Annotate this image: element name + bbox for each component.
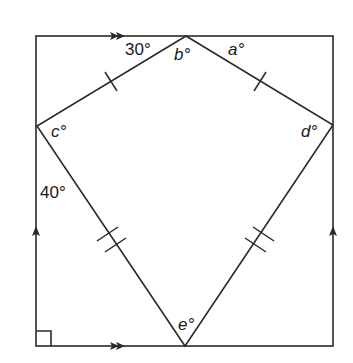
tick-upper-left	[105, 72, 117, 91]
right-angle-marker	[37, 331, 51, 346]
angle-label-e: e°	[178, 315, 194, 334]
kite-rectangle-diagram: 30° b° a° c° d° 40° e°	[0, 0, 353, 363]
bottom-double-arrow-icon	[110, 342, 125, 350]
tick-upper-right	[254, 72, 266, 91]
angle-label-c: c°	[51, 122, 67, 141]
angle-label-40: 40°	[40, 183, 66, 202]
top-double-arrow-icon	[110, 32, 125, 40]
angle-label-b: b°	[174, 45, 190, 64]
double-tick-lower-right	[245, 227, 274, 252]
angle-label-30: 30°	[125, 40, 151, 59]
kite-shape	[37, 36, 333, 346]
double-tick-lower-left	[97, 227, 126, 252]
angle-label-d: d°	[301, 122, 317, 141]
angle-label-a: a°	[228, 40, 244, 59]
